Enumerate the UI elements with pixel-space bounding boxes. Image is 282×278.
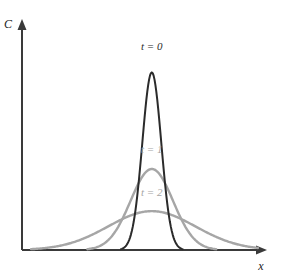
y-axis-label: C [4,17,13,31]
diffusion-curve-figure: C x t = 0 t = 1 t = 2 [0,0,282,278]
curve-label-t-0: t = 0 [141,40,163,52]
x-axis-label: x [257,259,264,273]
curve-label-t-1: t = 1 [141,143,162,155]
curve-label-t-2: t = 2 [141,186,163,198]
plot-canvas: C x t = 0 t = 1 t = 2 [0,0,282,278]
